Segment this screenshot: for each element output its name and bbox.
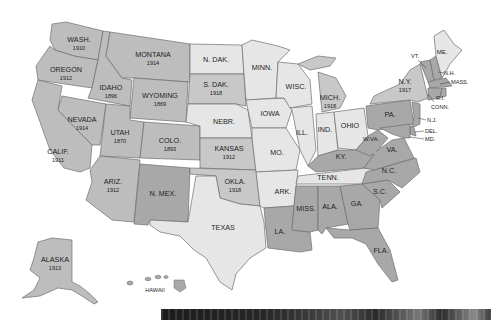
label-kansas: KANSAS (214, 144, 243, 153)
label-nc: N.C. (382, 166, 396, 175)
label-utah: UTAH (110, 128, 129, 137)
year-calif: 1911 (52, 157, 64, 163)
label-ariz: ARIZ. (104, 177, 122, 186)
state-delaware[interactable] (410, 126, 416, 136)
label-ill: ILL. (296, 128, 308, 137)
year-ny: 1917 (399, 87, 411, 93)
label-nebr: NEBR. (213, 117, 235, 126)
year-oregon: 1912 (60, 75, 72, 81)
year-nevada: 1914 (76, 125, 88, 131)
label-fla: FLA. (373, 246, 388, 255)
historical-photo-strip (161, 309, 491, 320)
label-calif: CALIF. (47, 147, 69, 156)
label-wva: W.VA. (363, 136, 380, 142)
label-okla: OKLA. (224, 177, 245, 186)
label-pa: PA. (384, 110, 395, 119)
label-sc: S.C. (373, 187, 387, 196)
label-me: ME. (437, 49, 448, 55)
label-n-mex: N. MEX. (150, 189, 177, 198)
us-suffrage-map: WASH. 1910 OREGON 1912 CALIF. 1911 IDAHO… (0, 0, 491, 320)
label-idaho: IDAHO (100, 83, 123, 92)
state-alaska[interactable] (22, 238, 98, 304)
leader-md (410, 137, 424, 139)
state-wyoming[interactable] (130, 78, 188, 122)
year-idaho: 1896 (105, 93, 117, 99)
label-miss: MISS. (296, 204, 316, 213)
state-new-jersey[interactable] (412, 102, 420, 128)
label-oregon: OREGON (50, 65, 82, 74)
leader-del (414, 131, 424, 132)
year-kansas: 1912 (223, 154, 235, 160)
label-minn: MINN. (252, 63, 272, 72)
label-ky: KY. (336, 152, 347, 161)
label-conn: CONN. (431, 104, 449, 110)
label-ny: N.Y. (398, 77, 411, 86)
label-vt: VT. (411, 53, 420, 59)
label-md: MD. (425, 136, 436, 142)
label-ind: IND. (318, 125, 332, 134)
year-wash: 1910 (73, 45, 85, 51)
label-mass: MASS. (451, 79, 469, 85)
year-colo: 1893 (164, 146, 176, 152)
label-n-dak: N. DAK. (203, 55, 229, 64)
label-s-dak: S. DAK. (203, 80, 229, 89)
label-wisc: WISC. (286, 82, 307, 91)
label-hawaii: HAWAII (145, 287, 165, 293)
year-s-dak: 1918 (210, 90, 222, 96)
label-ala: ALA. (322, 202, 338, 211)
label-ri: R.I. (436, 95, 445, 101)
label-ark: ARK. (275, 187, 292, 196)
year-utah: 1870 (114, 138, 126, 144)
label-iowa: IOWA (261, 109, 280, 118)
label-colo: COLO. (159, 136, 181, 145)
year-okla: 1918 (229, 187, 241, 193)
label-montana: MONTANA (135, 50, 171, 59)
year-mich: 1918 (324, 103, 336, 109)
label-wyoming: WYOMING (142, 91, 178, 100)
label-alaska: ALASKA (41, 255, 69, 264)
label-tenn: TENN. (317, 173, 339, 182)
label-mo: MO. (270, 148, 284, 157)
label-ga: GA. (351, 199, 363, 208)
year-ariz: 1912 (107, 187, 119, 193)
label-nevada: NEVADA (67, 115, 96, 124)
label-nh: N.H. (444, 70, 456, 76)
year-wyoming: 1869 (154, 101, 166, 107)
year-alaska: 1913 (49, 265, 61, 271)
label-nj: N.J. (427, 117, 437, 123)
state-florida[interactable] (326, 228, 398, 282)
label-va: VA. (386, 145, 397, 154)
year-montana: 1914 (147, 60, 159, 66)
label-texas: TEXAS (211, 223, 235, 232)
label-del: DEL. (425, 128, 438, 134)
label-ohio: OHIO (341, 121, 360, 130)
label-la: LA. (275, 227, 286, 236)
label-wash: WASH. (67, 35, 90, 44)
state-michigan-upper[interactable] (298, 56, 336, 70)
label-mich: MICH. (320, 93, 340, 102)
